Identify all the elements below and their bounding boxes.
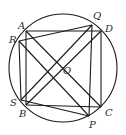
- label-B: B: [18, 108, 26, 119]
- label-Q: Q: [93, 10, 101, 21]
- label-O: O: [63, 65, 71, 76]
- segment-PS: [21, 100, 89, 116]
- label-D: D: [104, 23, 113, 34]
- segment-QP: [89, 25, 92, 116]
- label-P: P: [88, 119, 96, 130]
- label-S: S: [10, 97, 17, 108]
- circle-square-diagram: A R Q D S B C P O: [0, 0, 126, 135]
- label-C: C: [105, 107, 113, 118]
- segment-SR: [19, 41, 21, 100]
- geometry-figure: A R Q D S B C P O: [0, 0, 126, 135]
- line-segments: [19, 25, 101, 116]
- label-R: R: [8, 34, 17, 45]
- label-A: A: [17, 20, 25, 31]
- point-labels: A R Q D S B C P O: [8, 10, 113, 130]
- segment-RQ: [19, 25, 92, 41]
